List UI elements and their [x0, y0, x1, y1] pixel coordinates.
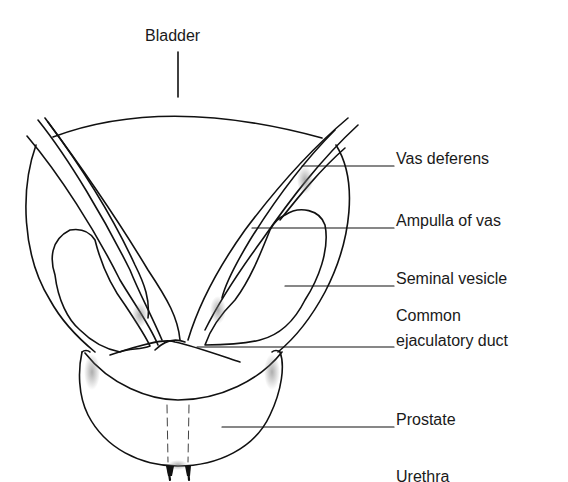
- right-seminal-vesicle: [205, 210, 326, 345]
- label-prostate: Prostate: [396, 411, 456, 429]
- label-bladder: Bladder: [145, 27, 200, 45]
- bladder-left-outline: [26, 145, 95, 352]
- prostate-outline: [80, 352, 283, 466]
- label-seminal-vesicle: Seminal vesicle: [396, 270, 507, 288]
- prostate-top: [85, 352, 282, 400]
- label-ejaculatory-duct: ejaculatory duct: [396, 332, 508, 350]
- bladder-top: [53, 116, 322, 138]
- label-ampulla-of-vas: Ampulla of vas: [396, 212, 501, 230]
- label-vas-deferens: Vas deferens: [396, 150, 489, 168]
- label-urethra: Urethra: [396, 468, 449, 482]
- anatomy-drawing: [0, 0, 568, 482]
- label-common: Common: [396, 307, 461, 325]
